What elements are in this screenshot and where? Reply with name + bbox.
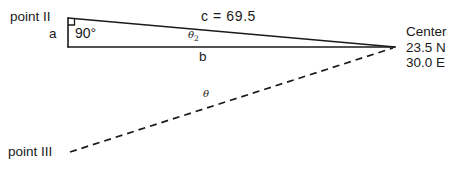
label-side-c: c = 69.5 [201,9,256,23]
center-label-longitude: 30.0 E [406,56,447,70]
label-right-angle: 90° [75,26,96,40]
label-theta: θ [203,89,209,99]
diagram-graphics [0,0,460,176]
center-label-name: Center [406,25,447,39]
label-point-ii: point II [10,10,51,24]
label-side-b: b [199,50,207,64]
center-label-latitude: 23.5 N [406,41,447,55]
diagram-canvas: point II a 90° c = 69.5 θ2 b θ point III… [0,0,460,176]
label-theta-two: θ2 [188,30,199,43]
center-label-block: Center 23.5 N 30.0 E [406,25,447,72]
label-side-a: a [49,27,57,41]
theta-dashed-ray-line [70,48,393,152]
label-point-iii: point III [8,145,52,159]
theta-two-subscript: 2 [194,34,199,43]
